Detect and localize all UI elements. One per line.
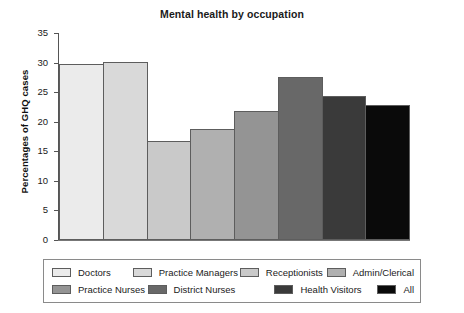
y-tick-mark — [54, 240, 58, 241]
bar-health-visitors — [322, 96, 367, 240]
legend-label: All — [403, 284, 414, 295]
y-tick-label: 10 — [0, 175, 48, 186]
legend-swatch-icon — [133, 268, 152, 277]
y-tick-label: 0 — [0, 234, 48, 245]
legend-swatch-icon — [148, 285, 167, 294]
y-tick-label: 5 — [0, 204, 48, 215]
legend-swatch-icon — [52, 285, 71, 294]
chart-legend: DoctorsPractice ManagersReceptionistsAdm… — [43, 259, 421, 303]
legend-swatch-icon — [327, 268, 346, 277]
y-tick-label: 30 — [0, 57, 48, 68]
legend-row: DoctorsPractice ManagersReceptionistsAdm… — [52, 264, 414, 281]
y-tick-mark — [54, 122, 58, 123]
legend-label: Health Visitors — [300, 284, 361, 295]
bar-series — [59, 33, 409, 240]
plot-area: 35302520151050 — [58, 33, 408, 240]
legend-swatch-icon — [377, 285, 396, 294]
y-tick-mark — [54, 181, 58, 182]
legend-row: Practice NursesDistrict NursesHealth Vis… — [52, 281, 414, 298]
legend-item-doctors[interactable]: Doctors — [52, 264, 133, 281]
legend-swatch-icon — [240, 268, 259, 277]
legend-item-practice-nurses[interactable]: Practice Nurses — [52, 281, 148, 298]
bar-all — [365, 105, 410, 240]
chart-title: Mental health by occupation — [0, 8, 464, 20]
legend-label: Practice Nurses — [78, 284, 145, 295]
legend-swatch-icon — [52, 268, 71, 277]
y-tick-label: 25 — [0, 86, 48, 97]
legend-label: Doctors — [78, 267, 111, 278]
bar-receptionists — [147, 141, 192, 240]
y-tick-mark — [54, 33, 58, 34]
y-axis-title: Percentages of GHQ cases — [19, 42, 30, 222]
chart-figure: Mental health by occupation Percentages … — [0, 0, 464, 313]
y-tick-mark — [54, 210, 58, 211]
y-tick-mark — [54, 151, 58, 152]
x-axis-line — [58, 240, 410, 241]
legend-swatch-icon — [274, 285, 293, 294]
y-tick-label: 35 — [0, 27, 48, 38]
legend-label: Practice Managers — [159, 267, 238, 278]
legend-item-all[interactable]: All — [377, 281, 414, 298]
bar-practice-nurses — [234, 111, 279, 240]
y-tick-label: 20 — [0, 116, 48, 127]
legend-item-admin-clerical[interactable]: Admin/Clerical — [327, 264, 414, 281]
legend-label: Receptionists — [266, 267, 323, 278]
y-tick-mark — [54, 92, 58, 93]
y-tick-label: 15 — [0, 145, 48, 156]
bar-practice-managers — [103, 62, 148, 240]
legend-item-receptionists[interactable]: Receptionists — [240, 264, 327, 281]
y-tick-mark — [54, 63, 58, 64]
legend-label: District Nurses — [174, 284, 236, 295]
legend-label: Admin/Clerical — [353, 267, 414, 278]
bar-district-nurses — [278, 77, 323, 240]
bar-admin-clerical — [190, 129, 235, 240]
bar-doctors — [59, 64, 104, 240]
legend-item-district-nurses[interactable]: District Nurses — [148, 281, 275, 298]
legend-item-practice-managers[interactable]: Practice Managers — [133, 264, 240, 281]
legend-item-health-visitors[interactable]: Health Visitors — [274, 281, 377, 298]
